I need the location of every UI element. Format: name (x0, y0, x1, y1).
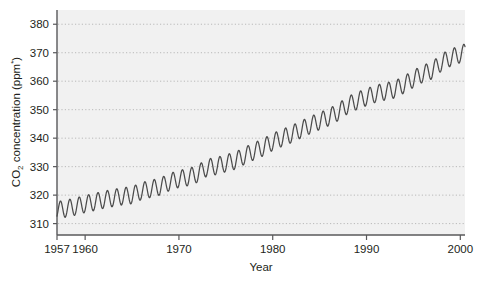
y-tick-label-330: 330 (30, 161, 49, 173)
y-tick-label-320: 320 (30, 189, 49, 201)
y-tick-label-360: 360 (30, 75, 49, 87)
y-tick-label-350: 350 (30, 104, 49, 116)
x-tick-label-1957: 1957 (44, 243, 70, 255)
y-tick-label-370: 370 (30, 47, 49, 59)
co2-concentration-chart-figure: 310320330340350360370380 195719601970198… (0, 0, 480, 285)
x-tick-label-1960: 1960 (72, 243, 98, 255)
x-tick-label-2000: 2000 (448, 243, 474, 255)
y-axis-title-rest: concentration (ppm (10, 64, 22, 166)
y-tick-label-310: 310 (30, 218, 49, 230)
plot-area-background (57, 10, 465, 235)
y-axis-title-close: ) (10, 57, 22, 61)
x-tick-label-1990: 1990 (354, 243, 380, 255)
x-tick-label-1980: 1980 (260, 243, 286, 255)
chart-svg: 310320330340350360370380 195719601970198… (0, 0, 480, 285)
x-tick-label-1970: 1970 (166, 243, 192, 255)
y-axis-title-co: CO (10, 170, 22, 187)
x-axis-title: Year (249, 261, 272, 273)
y-tick-label-380: 380 (30, 18, 49, 30)
y-tick-label-340: 340 (30, 132, 49, 144)
